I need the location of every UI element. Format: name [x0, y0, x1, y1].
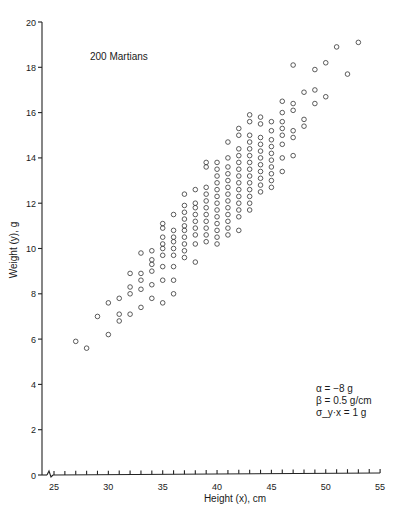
data-point — [291, 101, 296, 106]
data-point — [160, 264, 165, 269]
data-point — [150, 258, 155, 263]
data-point — [302, 117, 307, 122]
data-point — [236, 201, 241, 206]
annotation-sigma: σ_y·x = 1 g — [316, 407, 366, 418]
data-point — [171, 264, 176, 269]
data-point — [269, 151, 274, 156]
data-point — [193, 219, 198, 224]
x-tick-label: 45 — [266, 482, 276, 492]
data-point — [302, 90, 307, 95]
data-point — [247, 208, 252, 213]
data-point — [182, 210, 187, 215]
data-point — [236, 167, 241, 172]
data-point — [215, 242, 220, 247]
data-point — [160, 235, 165, 240]
data-point — [291, 135, 296, 140]
data-point — [204, 160, 209, 165]
data-point — [269, 137, 274, 142]
data-point — [236, 194, 241, 199]
data-point — [258, 162, 263, 167]
data-point — [204, 239, 209, 244]
data-point — [128, 271, 133, 276]
data-point — [226, 140, 231, 145]
data-point — [160, 278, 165, 283]
data-point — [160, 253, 165, 258]
data-point — [280, 119, 285, 124]
data-point — [171, 235, 176, 240]
data-point — [215, 181, 220, 186]
data-point — [291, 63, 296, 68]
data-point — [280, 110, 285, 115]
x-tick-label: 40 — [212, 482, 222, 492]
x-tick-label: 35 — [158, 482, 168, 492]
data-point — [106, 301, 111, 306]
data-point — [215, 235, 220, 240]
data-point — [280, 126, 285, 131]
data-point — [150, 262, 155, 267]
data-point — [204, 212, 209, 217]
data-point — [139, 278, 144, 283]
data-point — [150, 248, 155, 253]
y-tick-label: 10 — [26, 244, 36, 254]
data-point — [269, 165, 274, 170]
data-point — [226, 165, 231, 170]
data-point — [193, 212, 198, 217]
data-point — [236, 174, 241, 179]
data-point — [345, 72, 350, 77]
data-point — [84, 346, 89, 351]
data-point — [226, 199, 231, 204]
data-point — [247, 119, 252, 124]
data-point — [302, 124, 307, 129]
data-point — [247, 133, 252, 138]
x-tick-label: 30 — [103, 482, 113, 492]
data-point — [139, 271, 144, 276]
data-point — [139, 251, 144, 256]
data-point — [291, 153, 296, 158]
data-point — [258, 142, 263, 147]
annotation-beta: β = 0.5 g/cm — [316, 395, 372, 406]
data-point — [236, 187, 241, 192]
data-point — [215, 201, 220, 206]
data-point — [204, 205, 209, 210]
data-point — [73, 339, 78, 344]
data-point — [247, 174, 252, 179]
data-point — [226, 171, 231, 176]
data-point — [258, 115, 263, 120]
data-point — [269, 119, 274, 124]
x-axis: 25303540455055 — [42, 469, 385, 492]
data-point — [193, 205, 198, 210]
y-tick-label: 4 — [31, 380, 36, 390]
x-tick-label: 25 — [49, 482, 59, 492]
y-tick-label: 16 — [26, 108, 36, 118]
data-point — [182, 192, 187, 197]
data-point — [150, 269, 155, 274]
data-point — [150, 282, 155, 287]
data-point — [182, 228, 187, 233]
data-point — [258, 169, 263, 174]
data-point — [204, 219, 209, 224]
data-point — [258, 183, 263, 188]
data-point — [269, 158, 274, 163]
data-point — [139, 305, 144, 310]
x-axis-label: Height (x), cm — [204, 493, 266, 504]
y-axis: 02468101214161820 — [26, 18, 42, 481]
y-tick-label: 0 — [31, 471, 36, 481]
data-point — [334, 45, 339, 50]
data-point — [247, 201, 252, 206]
data-point — [280, 142, 285, 147]
data-point — [171, 212, 176, 217]
data-point — [280, 133, 285, 138]
data-point — [269, 171, 274, 176]
annotation-alpha: α = −8 g — [316, 383, 353, 394]
data-point — [204, 233, 209, 238]
data-point — [95, 314, 100, 319]
data-point — [247, 153, 252, 158]
data-point — [160, 221, 165, 226]
data-point — [258, 122, 263, 127]
data-point — [193, 233, 198, 238]
y-tick-label: 20 — [26, 18, 36, 28]
scatter-chart: 02468101214161820 25303540455055 200 Mar… — [0, 0, 394, 518]
data-point — [226, 226, 231, 231]
data-point — [204, 226, 209, 231]
data-point — [215, 214, 220, 219]
